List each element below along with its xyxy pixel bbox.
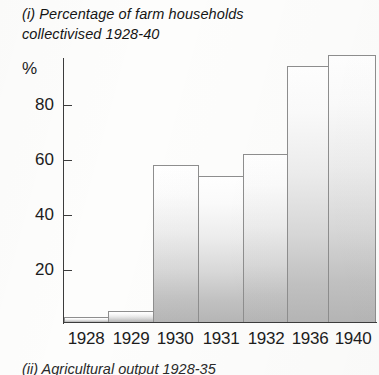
bar-1932 bbox=[243, 154, 288, 322]
bar-1931 bbox=[198, 176, 244, 322]
next-figure-caption: (ii) Agricultural output 1928-35 bbox=[22, 359, 216, 375]
bar-series bbox=[0, 0, 379, 375]
plot-area: % 80 60 40 20 1928 1929 1930 1931 1932 1… bbox=[0, 0, 379, 375]
x-tick-label-1940: 1940 bbox=[326, 329, 379, 349]
bar-1929 bbox=[108, 311, 154, 322]
bar-1940 bbox=[328, 55, 376, 322]
bar-1936 bbox=[287, 66, 329, 322]
chart-figure: (i) Percentage of farm households collec… bbox=[0, 0, 379, 375]
bar-1930 bbox=[153, 165, 199, 322]
bar-1928 bbox=[64, 317, 109, 322]
